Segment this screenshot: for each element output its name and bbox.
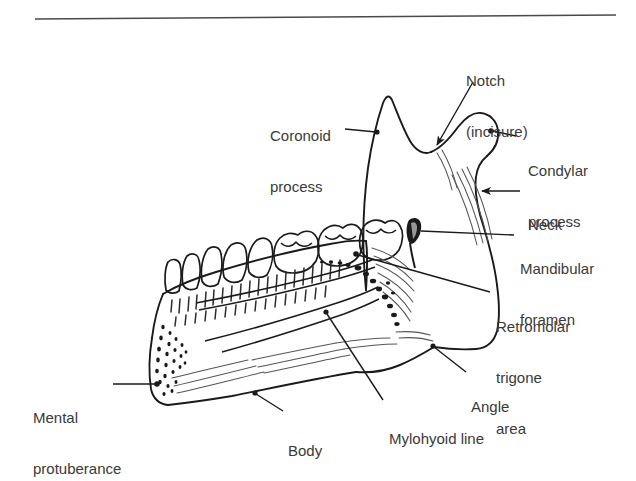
mental-protuberance-stipple bbox=[155, 325, 187, 396]
top-rule bbox=[35, 15, 616, 19]
leader-body bbox=[256, 394, 283, 411]
label-coronoid-process-line2: process bbox=[270, 178, 331, 195]
label-mylohyoid-line-line1: Mylohyoid line bbox=[389, 430, 484, 447]
label-retromolar-trigone-line1: Retromolar bbox=[496, 318, 570, 335]
leader-angle bbox=[434, 347, 466, 372]
label-condylar-process-line1: Condylar bbox=[528, 162, 588, 179]
label-coronoid-process: Coronoid process bbox=[270, 93, 331, 212]
retromolar-trigone-texture bbox=[320, 260, 400, 326]
label-body: Body bbox=[288, 408, 322, 476]
leader-coronoid-process bbox=[345, 129, 376, 132]
leader-retromolar-trigone bbox=[358, 255, 490, 292]
label-notch-line2: (incisure) bbox=[466, 123, 528, 140]
label-coronoid-process-line1: Coronoid bbox=[270, 127, 331, 144]
label-mylohyoid-line: Mylohyoid line bbox=[389, 396, 484, 464]
mandibular-foramen-opening bbox=[407, 218, 422, 268]
leader-mylohyoid-line bbox=[327, 314, 383, 400]
alveolar-hatching bbox=[171, 260, 340, 326]
label-mental-protuberance-line1: Mental bbox=[33, 409, 121, 426]
label-mental-protuberance-line2: protuberance bbox=[33, 460, 121, 477]
label-notch-line1: Notch bbox=[466, 72, 528, 89]
leader-mandibular-foramen bbox=[421, 231, 514, 235]
label-body-line1: Body bbox=[288, 442, 322, 459]
label-notch: Notch (incisure) bbox=[466, 38, 528, 157]
label-mental-protuberance: Mental protuberance bbox=[33, 375, 121, 481]
label-mandibular-foramen-line1: Mandibular bbox=[520, 260, 594, 277]
